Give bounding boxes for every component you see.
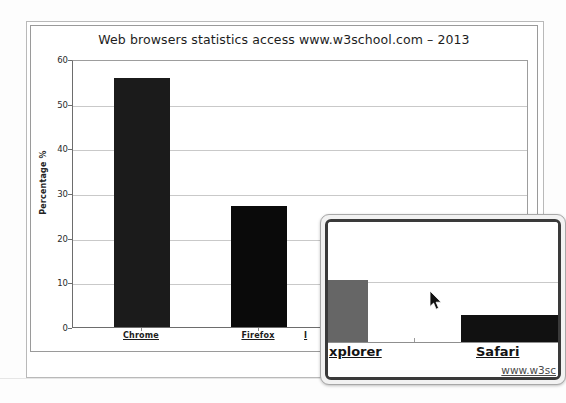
y-tick-mark <box>68 328 72 329</box>
x-label-chrome: Chrome <box>123 331 159 340</box>
y-tick-label: 30 <box>34 189 68 199</box>
y-tick-label: 60 <box>34 55 68 65</box>
magnified-chart-inset[interactable]: xplorer Safari www.w3sc <box>320 214 566 385</box>
inset-x-label-explorer: xplorer <box>329 344 382 359</box>
inset-plot-area <box>328 222 558 343</box>
chart-title: Web browsers statistics access www.w3sch… <box>30 32 538 47</box>
inset-bezel: xplorer Safari www.w3sc <box>325 219 561 380</box>
scan-artifact <box>0 378 320 379</box>
y-tick-label: 10 <box>34 278 68 288</box>
inset-x-label-safari: Safari <box>476 344 519 359</box>
y-tick-label: 50 <box>34 100 68 110</box>
inset-watermark: www.w3sc <box>501 364 556 376</box>
y-tick-label: 0 <box>34 323 68 333</box>
inset-x-tick-mark <box>414 338 415 342</box>
inset-bar-safari[interactable] <box>461 315 558 342</box>
bar-chrome[interactable] <box>114 78 170 327</box>
x-label-firefox: Firefox <box>241 331 274 340</box>
y-tick-label: 40 <box>34 144 68 154</box>
inset-footer: xplorer Safari www.w3sc <box>328 343 558 377</box>
y-axis-ticks: 60 50 40 30 20 10 0 <box>30 60 68 328</box>
x-label-internet-explorer: I <box>304 331 307 340</box>
y-tick-label: 20 <box>34 234 68 244</box>
inset-bar-internet-explorer[interactable] <box>328 280 368 342</box>
bar-firefox[interactable] <box>231 206 287 327</box>
